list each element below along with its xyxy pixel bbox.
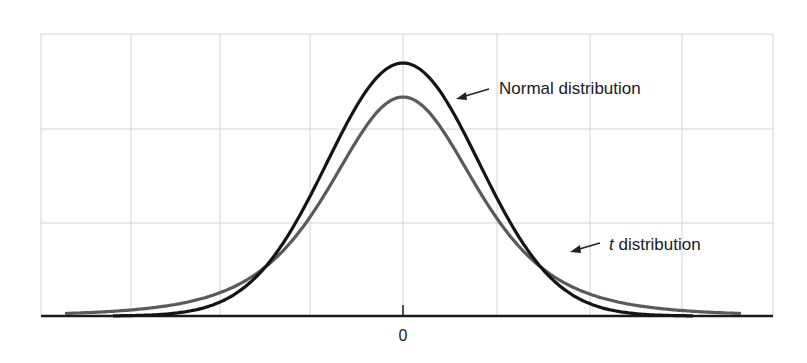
- normal-annotation: Normal distribution: [456, 79, 641, 100]
- t-distribution-label-rest: distribution: [614, 235, 701, 254]
- normal-arrowhead-icon: [456, 92, 467, 100]
- chart-grid: [41, 34, 773, 316]
- t-arrowhead-icon: [570, 245, 581, 253]
- normal-distribution-label: Normal distribution: [499, 79, 641, 98]
- t-distribution-label: t distribution: [609, 235, 701, 254]
- x-axis-zero-label: 0: [399, 327, 408, 344]
- distribution-chart: 0 Normal distribution t distribution: [0, 0, 807, 363]
